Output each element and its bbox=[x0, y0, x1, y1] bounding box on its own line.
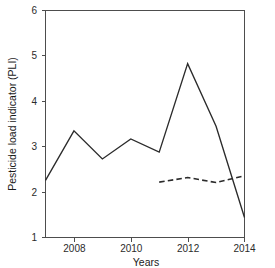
y-tick-label-3: 3 bbox=[31, 141, 37, 152]
y-tick-label-6: 6 bbox=[31, 5, 37, 16]
x-tick-label-2010: 2010 bbox=[120, 243, 143, 254]
y-axis-title: Pesticide load indicator (PLI) bbox=[6, 57, 18, 191]
y-tick-label-1: 1 bbox=[31, 232, 37, 243]
y-axis-tick-labels: 6 5 4 3 2 1 bbox=[31, 5, 37, 243]
x-axis-ticks bbox=[74, 238, 244, 242]
pesticide-load-indicator-chart: 6 5 4 3 2 1 2008 2010 2012 2014 Pesticid… bbox=[0, 0, 275, 268]
x-tick-label-2008: 2008 bbox=[63, 243, 86, 254]
y-tick-label-4: 4 bbox=[31, 96, 37, 107]
x-axis-title: Years bbox=[133, 256, 159, 268]
x-tick-label-2014: 2014 bbox=[233, 243, 256, 254]
series-line-solid bbox=[46, 64, 245, 218]
y-tick-label-5: 5 bbox=[31, 50, 37, 61]
data-series-group bbox=[46, 64, 245, 218]
chart-canvas: 6 5 4 3 2 1 2008 2010 2012 2014 Pesticid… bbox=[0, 0, 275, 268]
x-tick-label-2012: 2012 bbox=[177, 243, 200, 254]
y-tick-label-2: 2 bbox=[31, 187, 37, 198]
x-axis-tick-labels: 2008 2010 2012 2014 bbox=[63, 243, 256, 254]
y-axis-ticks bbox=[42, 11, 46, 238]
